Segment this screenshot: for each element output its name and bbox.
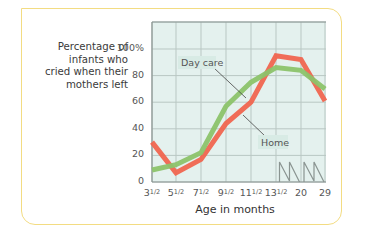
- gridlines: [152, 22, 326, 182]
- x-tick-label: 111/2: [240, 187, 263, 198]
- x-tick-label: 131/2: [265, 187, 288, 198]
- x-tick-label: 91/2: [218, 187, 235, 198]
- day-care-label: Day care: [181, 57, 224, 68]
- home-label: Home: [261, 137, 289, 148]
- x-tick-label: 71/2: [193, 187, 210, 198]
- x-tick-label: 29: [319, 187, 331, 198]
- x-tick-label: 20: [295, 187, 307, 198]
- x-tick-label: 31/2: [144, 187, 161, 198]
- x-tick-label: 51/2: [168, 187, 185, 198]
- x-axis-title: Age in months: [165, 203, 305, 216]
